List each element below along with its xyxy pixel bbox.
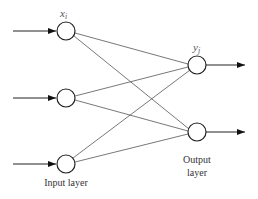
output-layer-label-line2: layer [187, 167, 208, 178]
edge-in3-out2 [75, 134, 188, 162]
connections [73, 33, 190, 162]
input-node-2 [57, 89, 75, 107]
input-layer-label: Input layer [44, 177, 88, 188]
input-node-1 [57, 22, 75, 40]
input-layer-nodes [57, 22, 75, 173]
edge-in2-out2 [75, 100, 188, 131]
input-node-var-label: xi [59, 7, 67, 21]
edge-in1-out1 [75, 33, 188, 64]
edge-in2-out1 [75, 67, 188, 96]
output-arrows [206, 65, 245, 132]
output-layer-nodes [188, 56, 206, 141]
input-arrows [13, 31, 56, 164]
edge-in1-out2 [74, 36, 189, 129]
output-node-2 [188, 123, 206, 141]
output-node-var-label: yj [192, 41, 201, 55]
edge-in3-out1 [73, 70, 190, 158]
neural-network-diagram: xi yj Input layer Output layer [0, 0, 258, 199]
output-node-1 [188, 56, 206, 74]
output-layer-label-line1: Output [183, 154, 211, 165]
input-node-3 [57, 155, 75, 173]
